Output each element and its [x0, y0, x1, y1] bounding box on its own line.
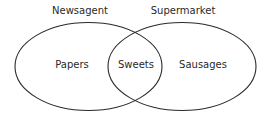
supermarket-title: Supermarket: [151, 6, 216, 16]
newsagent-title: Newsagent: [52, 6, 108, 16]
sweets-label: Sweets: [118, 60, 154, 70]
venn-diagram: Newsagent Supermarket Papers Sweets Saus…: [0, 0, 270, 117]
sausages-label: Sausages: [179, 60, 227, 70]
papers-label: Papers: [55, 60, 89, 70]
